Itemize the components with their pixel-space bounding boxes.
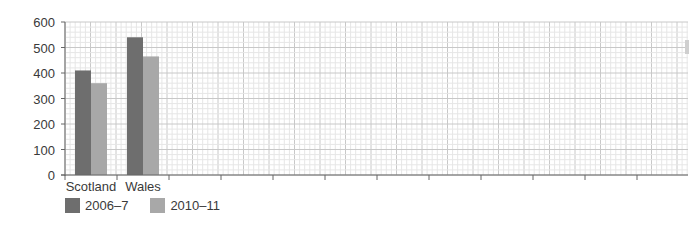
edge-artifact <box>685 40 689 54</box>
legend-label: 2010–11 <box>170 198 220 213</box>
y-axis-tick-labels: 0100200300400500600 <box>33 15 55 183</box>
bar-wales-0 <box>127 37 143 175</box>
y-tick-label: 200 <box>33 117 55 132</box>
y-tick-label: 0 <box>48 168 55 183</box>
y-tick-label: 400 <box>33 66 55 81</box>
legend-item-2006-7: 2006–7 <box>65 198 128 213</box>
y-tick-label: 100 <box>33 143 55 158</box>
bar-chart: 0100200300400500600 ScotlandWales <box>0 0 690 225</box>
legend-swatch-light <box>150 198 165 213</box>
x-axis-category-labels: ScotlandWales <box>66 179 162 194</box>
y-tick-label: 500 <box>33 41 55 56</box>
legend-item-2010-11: 2010–11 <box>150 198 220 213</box>
legend-label: 2006–7 <box>85 198 128 213</box>
x-category-label: Wales <box>125 179 161 194</box>
y-tick-label: 300 <box>33 92 55 107</box>
legend-swatch-dark <box>65 198 80 213</box>
chart-legend: 2006–7 2010–11 <box>65 198 242 213</box>
y-tick-label: 600 <box>33 15 55 30</box>
bar-wales-1 <box>143 56 159 175</box>
bar-scotland-0 <box>75 70 91 175</box>
bar-scotland-1 <box>91 83 107 175</box>
x-category-label: Scotland <box>66 179 117 194</box>
